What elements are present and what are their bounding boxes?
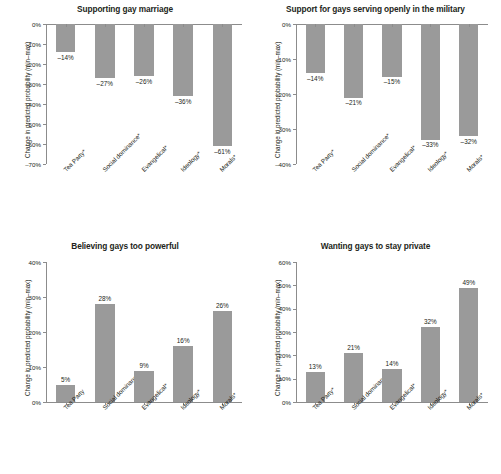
y-axis-tick-label: 0% xyxy=(254,21,291,28)
y-axis-tick-label: 0% xyxy=(4,399,41,406)
x-axis-tick xyxy=(222,24,223,27)
panel-supporting-gay-marriage: Supporting gay marriage Change in predic… xyxy=(0,0,250,237)
bar-value-label: 28% xyxy=(83,295,127,302)
y-axis-tick xyxy=(43,104,46,105)
y-axis-tick-label: 0% xyxy=(254,399,291,406)
y-axis-tick xyxy=(293,59,296,60)
bar-value-label: –32% xyxy=(447,138,491,145)
y-axis-tick xyxy=(293,309,296,310)
y-axis-tick xyxy=(293,285,296,286)
y-axis-tick-label: –60% xyxy=(4,141,41,148)
bar-value-label: 9% xyxy=(122,362,166,369)
y-axis-tick-label: –70% xyxy=(4,161,41,168)
bar-value-label: 16% xyxy=(161,337,205,344)
x-axis-tick xyxy=(66,24,67,27)
y-axis-tick-label: –10% xyxy=(4,41,41,48)
x-axis-category-label: Morals* xyxy=(465,153,485,173)
y-axis-tick-label: 40% xyxy=(4,259,41,266)
x-axis-category-label: Ideology* xyxy=(426,150,449,173)
y-axis-tick xyxy=(293,129,296,130)
bar xyxy=(421,327,440,402)
y-axis-tick-label: –20% xyxy=(254,91,291,98)
y-axis-tick xyxy=(293,379,296,380)
y-axis-tick-label: –30% xyxy=(4,81,41,88)
x-axis-tick xyxy=(183,24,184,27)
x-axis-tick xyxy=(144,24,145,27)
y-axis-line xyxy=(46,24,47,164)
plot-area: Change in predicted probability (min–max… xyxy=(0,0,250,237)
bar-value-label: 32% xyxy=(408,318,452,325)
x-axis-tick xyxy=(392,24,393,27)
bar xyxy=(306,24,325,73)
y-axis-tick xyxy=(293,262,296,263)
x-axis-category-label: Tea Party* xyxy=(62,148,87,173)
x-axis-tick xyxy=(315,24,316,27)
bar xyxy=(134,24,154,76)
plot-area: Change in predicted probability (min–max… xyxy=(0,237,250,474)
y-axis-tick xyxy=(43,262,46,263)
y-axis-tick xyxy=(43,402,46,403)
x-axis-category-label: Social dominance* xyxy=(350,132,391,173)
bar xyxy=(421,24,440,140)
bar-value-label: 21% xyxy=(332,344,376,351)
bar xyxy=(95,24,115,78)
bar xyxy=(56,24,76,52)
bar-value-label: 26% xyxy=(200,302,244,309)
y-axis-tick-label: –20% xyxy=(4,61,41,68)
x-axis-tick xyxy=(354,24,355,27)
y-axis-tick xyxy=(43,84,46,85)
y-axis-tick xyxy=(293,94,296,95)
panel-wanting-gays-to-stay-private: Wanting gays to stay private Change in p… xyxy=(250,237,501,474)
x-axis-category-label: Social dominance* xyxy=(101,132,142,173)
bar-value-label: 14% xyxy=(370,360,414,367)
x-axis-tick xyxy=(430,24,431,27)
y-axis-tick xyxy=(43,367,46,368)
y-axis-tick xyxy=(43,24,46,25)
x-axis-category-label: Ideology* xyxy=(179,150,202,173)
y-axis-tick xyxy=(43,164,46,165)
y-axis-tick-label: 20% xyxy=(254,352,291,359)
bar-value-label: –33% xyxy=(408,141,452,148)
y-axis-tick-label: 30% xyxy=(4,294,41,301)
x-axis-category-label: Evangelical* xyxy=(388,144,417,173)
y-axis-tick-label: –10% xyxy=(254,56,291,63)
bar xyxy=(213,311,233,402)
y-axis-tick-label: –40% xyxy=(4,101,41,108)
bar-value-label: –21% xyxy=(332,99,376,106)
bar xyxy=(213,24,233,146)
y-axis-tick-label: 20% xyxy=(4,329,41,336)
panel-believing-gays-too-powerful: Believing gays too powerful Change in pr… xyxy=(0,237,250,474)
x-axis-category-label: Morals* xyxy=(218,153,238,173)
bar-value-label: 49% xyxy=(447,279,491,286)
y-axis-line xyxy=(296,262,297,402)
y-axis-tick-label: 50% xyxy=(254,282,291,289)
y-axis-tick-label: 0% xyxy=(4,21,41,28)
plot-area: Change in predicted probability (min–max… xyxy=(250,237,501,474)
y-axis-tick-label: 10% xyxy=(4,364,41,371)
bar-value-label: –14% xyxy=(44,54,88,61)
bar xyxy=(382,24,401,77)
bar-value-label: –14% xyxy=(293,75,337,82)
bar-value-label: 5% xyxy=(44,376,88,383)
bar xyxy=(344,24,363,98)
bar-value-label: –61% xyxy=(200,148,244,155)
y-axis-tick xyxy=(293,332,296,333)
x-axis-tick xyxy=(469,24,470,27)
y-axis-tick xyxy=(293,24,296,25)
bar-value-label: –15% xyxy=(370,78,414,85)
y-axis-tick-label: 30% xyxy=(254,329,291,336)
plot-area: Change in predicted probability (min–max… xyxy=(250,0,501,237)
bar xyxy=(459,24,478,136)
x-axis-category-label: Tea Party* xyxy=(311,148,336,173)
y-axis-tick-label: 60% xyxy=(254,259,291,266)
bar xyxy=(95,304,115,402)
y-axis-tick xyxy=(43,144,46,145)
bar-value-label: –26% xyxy=(122,78,166,85)
y-axis-line xyxy=(296,24,297,164)
bar-value-label: –36% xyxy=(161,98,205,105)
bar xyxy=(459,288,478,402)
bar-value-label: 13% xyxy=(293,363,337,370)
y-axis-tick-label: 10% xyxy=(254,375,291,382)
y-axis-tick-label: –40% xyxy=(254,161,291,168)
y-axis-tick xyxy=(293,355,296,356)
